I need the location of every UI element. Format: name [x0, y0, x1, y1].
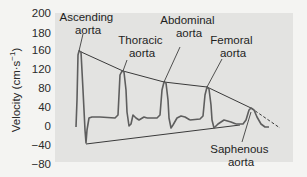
- y-tick: −80: [31, 158, 51, 170]
- velocity-chart-svg: 200 180 160 120 80 40 0 −40 −80 Velocity…: [0, 0, 307, 177]
- y-tick: 160: [32, 44, 51, 56]
- chart: 200 180 160 120 80 40 0 −40 −80 Velocity…: [0, 0, 307, 177]
- y-tick: 80: [38, 82, 51, 94]
- y-axis-label: Velocity (cm·s−1): [8, 48, 22, 133]
- y-tick: 40: [38, 101, 51, 113]
- y-tick: 180: [32, 27, 51, 39]
- y-tick: 0: [45, 120, 51, 132]
- y-tick: 200: [32, 7, 51, 19]
- y-tick: −40: [31, 139, 51, 151]
- y-tick: 120: [32, 63, 51, 75]
- y-axis-ticks: 200 180 160 120 80 40 0 −40 −80: [31, 7, 51, 170]
